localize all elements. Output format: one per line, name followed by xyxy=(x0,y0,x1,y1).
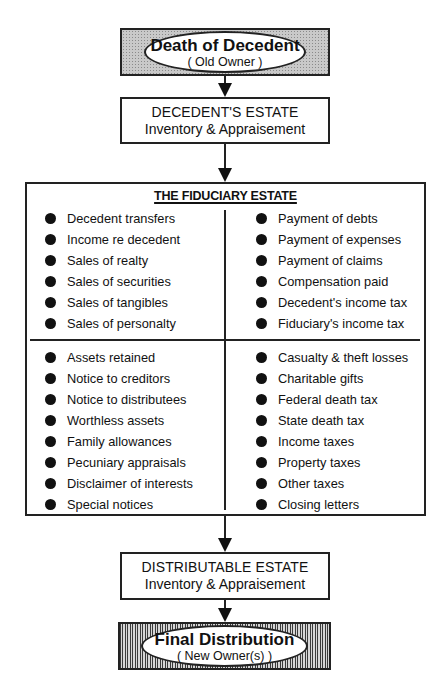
decedents-estate-subtitle: Inventory & Appraisement xyxy=(122,121,328,138)
list-item: Decedent's income tax xyxy=(256,292,407,313)
list-item: Compensation paid xyxy=(256,271,407,292)
distributable-estate-subtitle: Inventory & Appraisement xyxy=(122,576,328,593)
arrow-down-icon xyxy=(218,608,232,622)
bullet-icon xyxy=(256,297,267,308)
arrow-down-icon xyxy=(218,168,232,182)
connector-line xyxy=(224,516,226,540)
bullet-icon xyxy=(256,394,267,405)
list-item: Sales of tangibles xyxy=(45,292,180,313)
bullet-icon xyxy=(45,457,56,468)
list-item: Notice to distributees xyxy=(45,389,193,410)
list-item: Sales of personalty xyxy=(45,313,180,334)
arrow-down-icon xyxy=(218,538,232,552)
fiduciary-estate-title-text: THE FIDUCIARY ESTATE xyxy=(154,189,297,203)
bullet-icon xyxy=(45,276,56,287)
list-item: Notice to creditors xyxy=(45,368,193,389)
bullet-icon xyxy=(256,478,267,489)
bottom-right-list: Casualty & theft losses Charitable gifts… xyxy=(256,347,408,515)
end-subtitle: ( New Owner(s) ) xyxy=(143,649,306,664)
list-item: Other taxes xyxy=(256,473,408,494)
bullet-icon xyxy=(256,457,267,468)
list-item: Closing letters xyxy=(256,494,408,515)
bullet-icon xyxy=(45,318,56,329)
bullet-icon xyxy=(45,499,56,510)
list-item: Worthless assets xyxy=(45,410,193,431)
distributable-estate-node: DISTRIBUTABLE ESTATE Inventory & Apprais… xyxy=(120,552,330,600)
list-item: Casualty & theft losses xyxy=(256,347,408,368)
death-of-decedent-ellipse: Death of Decedent ( Old Owner ) xyxy=(144,31,306,73)
list-item: Sales of realty xyxy=(45,250,180,271)
quadrant-vertical-divider xyxy=(224,210,226,510)
list-item: Payment of claims xyxy=(256,250,407,271)
final-distribution-node: Final Distribution ( New Owner(s) ) xyxy=(118,622,331,670)
bullet-icon xyxy=(45,436,56,447)
death-of-decedent-node: Death of Decedent ( Old Owner ) xyxy=(120,28,330,76)
list-item: Property taxes xyxy=(256,452,408,473)
bullet-icon xyxy=(256,255,267,266)
bullet-icon xyxy=(256,276,267,287)
fiduciary-estate-node: THE FIDUCIARY ESTATE Decedent transfers … xyxy=(25,182,426,516)
list-item: Pecuniary appraisals xyxy=(45,452,193,473)
arrow-down-icon xyxy=(218,83,232,97)
list-item: Assets retained xyxy=(45,347,193,368)
bullet-icon xyxy=(45,352,56,363)
list-item: Sales of securities xyxy=(45,271,180,292)
list-item: Special notices xyxy=(45,494,193,515)
bullet-icon xyxy=(45,478,56,489)
list-item: Family allowances xyxy=(45,431,193,452)
distributable-estate-title: DISTRIBUTABLE ESTATE xyxy=(122,559,328,576)
end-title: Final Distribution xyxy=(143,630,306,649)
list-item: Income taxes xyxy=(256,431,408,452)
bullet-icon xyxy=(256,415,267,426)
decedents-estate-title: DECEDENT'S ESTATE xyxy=(122,104,328,121)
bullet-icon xyxy=(256,499,267,510)
bullet-icon xyxy=(45,394,56,405)
bullet-icon xyxy=(45,234,56,245)
top-right-list: Payment of debts Payment of expenses Pay… xyxy=(256,208,407,334)
bottom-left-list: Assets retained Notice to creditors Noti… xyxy=(45,347,193,515)
bullet-icon xyxy=(256,318,267,329)
bullet-icon xyxy=(45,255,56,266)
start-title: Death of Decedent xyxy=(146,36,304,55)
fiduciary-estate-title: THE FIDUCIARY ESTATE xyxy=(27,189,424,203)
quadrant-horizontal-divider xyxy=(30,339,420,341)
bullet-icon xyxy=(256,373,267,384)
list-item: State death tax xyxy=(256,410,408,431)
list-item: Charitable gifts xyxy=(256,368,408,389)
bullet-icon xyxy=(45,297,56,308)
bullet-icon xyxy=(45,213,56,224)
bullet-icon xyxy=(256,213,267,224)
bullet-icon xyxy=(45,415,56,426)
list-item: Federal death tax xyxy=(256,389,408,410)
list-item: Payment of expenses xyxy=(256,229,407,250)
list-item: Payment of debts xyxy=(256,208,407,229)
list-item: Fiduciary's income tax xyxy=(256,313,407,334)
bullet-icon xyxy=(256,234,267,245)
top-left-list: Decedent transfers Income re decedent Sa… xyxy=(45,208,180,334)
bullet-icon xyxy=(45,373,56,384)
decedents-estate-node: DECEDENT'S ESTATE Inventory & Appraiseme… xyxy=(120,97,330,144)
bullet-icon xyxy=(256,352,267,363)
list-item: Disclaimer of interests xyxy=(45,473,193,494)
list-item: Income re decedent xyxy=(45,229,180,250)
bullet-icon xyxy=(256,436,267,447)
final-distribution-ellipse: Final Distribution ( New Owner(s) ) xyxy=(141,625,308,667)
list-item: Decedent transfers xyxy=(45,208,180,229)
start-subtitle: ( Old Owner ) xyxy=(146,55,304,70)
connector-line xyxy=(224,144,226,170)
